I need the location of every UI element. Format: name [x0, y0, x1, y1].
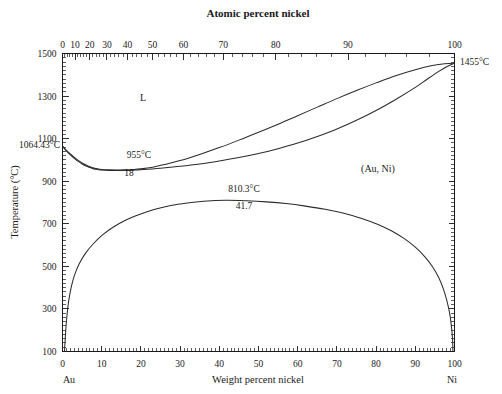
- right-endpoint-label: Ni: [447, 374, 457, 385]
- left-tick-label: 900: [42, 177, 57, 187]
- liquid-region-label: L: [140, 92, 146, 103]
- top-tick-label: 10: [70, 40, 80, 50]
- bottom-tick-label: 40: [215, 359, 225, 369]
- left-tick-label: 100: [42, 347, 57, 357]
- left-tick-label: 300: [42, 304, 57, 314]
- bottom-tick-label: 80: [371, 359, 381, 369]
- ni-melting-point-label: 1455°C: [460, 57, 489, 67]
- left-tick-label: 1300: [38, 92, 57, 102]
- phase-diagram-figure: Atomic percent nickel 010203040506070809…: [0, 0, 502, 394]
- miscibility-composition-label: 41.7: [236, 201, 253, 211]
- top-tick-label: 40: [123, 40, 133, 50]
- top-tick-label: 60: [179, 40, 189, 50]
- miscibility-temperature-label: 810.3°C: [228, 184, 260, 194]
- bottom-tick-label: 70: [332, 359, 342, 369]
- minimum-temperature-label: 955°C: [127, 150, 151, 160]
- left-axis-title: Temperature (°C): [9, 165, 21, 239]
- minimum-composition-label: 18: [124, 168, 134, 178]
- bottom-tick-label: 20: [136, 359, 146, 369]
- bottom-tick-label: 30: [175, 359, 185, 369]
- bottom-tick-label: 90: [411, 359, 421, 369]
- bottom-tick-label: 60: [293, 359, 303, 369]
- bottom-tick-label: 100: [447, 359, 462, 369]
- top-axis-title: Atomic percent nickel: [206, 7, 309, 19]
- top-tick-label: 30: [102, 40, 112, 50]
- left-tick-label: 500: [42, 262, 57, 272]
- top-tick-label: 90: [343, 40, 353, 50]
- top-tick-label: 100: [447, 40, 462, 50]
- left-tick-label: 1500: [38, 49, 57, 59]
- top-tick-label: 0: [60, 40, 65, 50]
- bottom-tick-label: 10: [97, 359, 107, 369]
- solid-solution-region-label: (Au, Ni): [361, 163, 395, 175]
- left-endpoint-label: Au: [63, 374, 75, 385]
- left-tick-label: 700: [42, 219, 57, 229]
- top-tick-label: 50: [148, 40, 158, 50]
- top-tick-label: 70: [219, 40, 229, 50]
- top-tick-label: 80: [271, 40, 281, 50]
- bottom-tick-label: 0: [60, 359, 65, 369]
- phase-diagram-svg: Atomic percent nickel 010203040506070809…: [0, 0, 502, 394]
- top-tick-label: 20: [85, 40, 95, 50]
- bottom-tick-label: 50: [254, 359, 264, 369]
- au-melting-point-label: 1064.43°C: [19, 140, 60, 150]
- bottom-axis-title: Weight percent nickel: [212, 374, 304, 385]
